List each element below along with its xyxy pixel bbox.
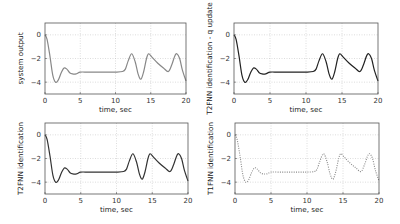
x-tick-label: 5 xyxy=(79,197,83,205)
x-tick-label: 10 xyxy=(111,97,120,105)
x-tick-label: 20 xyxy=(374,97,383,105)
figure-canvas: 051015200−2−4time, secsystem output 0510… xyxy=(0,0,400,224)
x-tick-label: 0 xyxy=(232,97,236,105)
x-tick-label: 0 xyxy=(43,97,47,105)
x-tick-label: 10 xyxy=(302,97,311,105)
y-axis-label: T1FNN identification xyxy=(206,122,215,196)
x-tick-label: 0 xyxy=(43,197,47,205)
x-tick-label: 20 xyxy=(184,197,193,205)
y-tick-label: −4 xyxy=(31,179,42,187)
y-tick-label: −4 xyxy=(31,79,42,87)
y-tick-label: −2 xyxy=(31,155,41,163)
x-axis-label: time, sec xyxy=(290,105,323,114)
x-tick-label: 20 xyxy=(375,197,384,205)
x-tick-label: 5 xyxy=(268,97,272,105)
x-tick-label: 0 xyxy=(233,197,237,205)
x-tick-label: 20 xyxy=(182,97,191,105)
y-axis-label: system output xyxy=(16,32,25,84)
x-tick-label: 10 xyxy=(303,197,312,205)
y-tick-label: 0 xyxy=(226,31,230,39)
y-tick-label: 0 xyxy=(227,131,231,139)
plot-t2fnn-identification: 051015200−2−4time, secT2FNN identificati… xyxy=(16,122,192,214)
x-tick-label: 15 xyxy=(146,97,155,105)
y-tick-label: −2 xyxy=(221,155,231,163)
y-tick-label: −2 xyxy=(31,55,41,63)
y-tick-label: −2 xyxy=(220,55,230,63)
y-tick-label: −4 xyxy=(221,179,232,187)
y-axis-label: T2FNN identification xyxy=(16,122,25,196)
x-tick-label: 10 xyxy=(112,197,121,205)
x-tick-label: 15 xyxy=(148,197,157,205)
x-axis-label: time, sec xyxy=(291,205,324,214)
plot-system-output: 051015200−2−4time, secsystem output xyxy=(16,23,190,114)
x-axis-label: time, sec xyxy=(100,205,133,214)
plot-t2fnn-q-update: 051015200−2−4time, secT2FNN identificati… xyxy=(205,2,382,116)
y-tick-label: 0 xyxy=(37,31,41,39)
x-axis-label: time, sec xyxy=(99,105,132,114)
x-tick-label: 5 xyxy=(269,197,273,205)
y-tick-label: −4 xyxy=(220,79,231,87)
x-tick-label: 15 xyxy=(339,197,348,205)
x-tick-label: 15 xyxy=(338,97,347,105)
y-axis-label: T2FNN identification - q update xyxy=(205,2,214,116)
y-tick-label: 0 xyxy=(37,131,41,139)
x-tick-label: 5 xyxy=(78,97,82,105)
plot-t1fnn-identification: 051015200−2−4time, secT1FNN identificati… xyxy=(206,122,383,214)
